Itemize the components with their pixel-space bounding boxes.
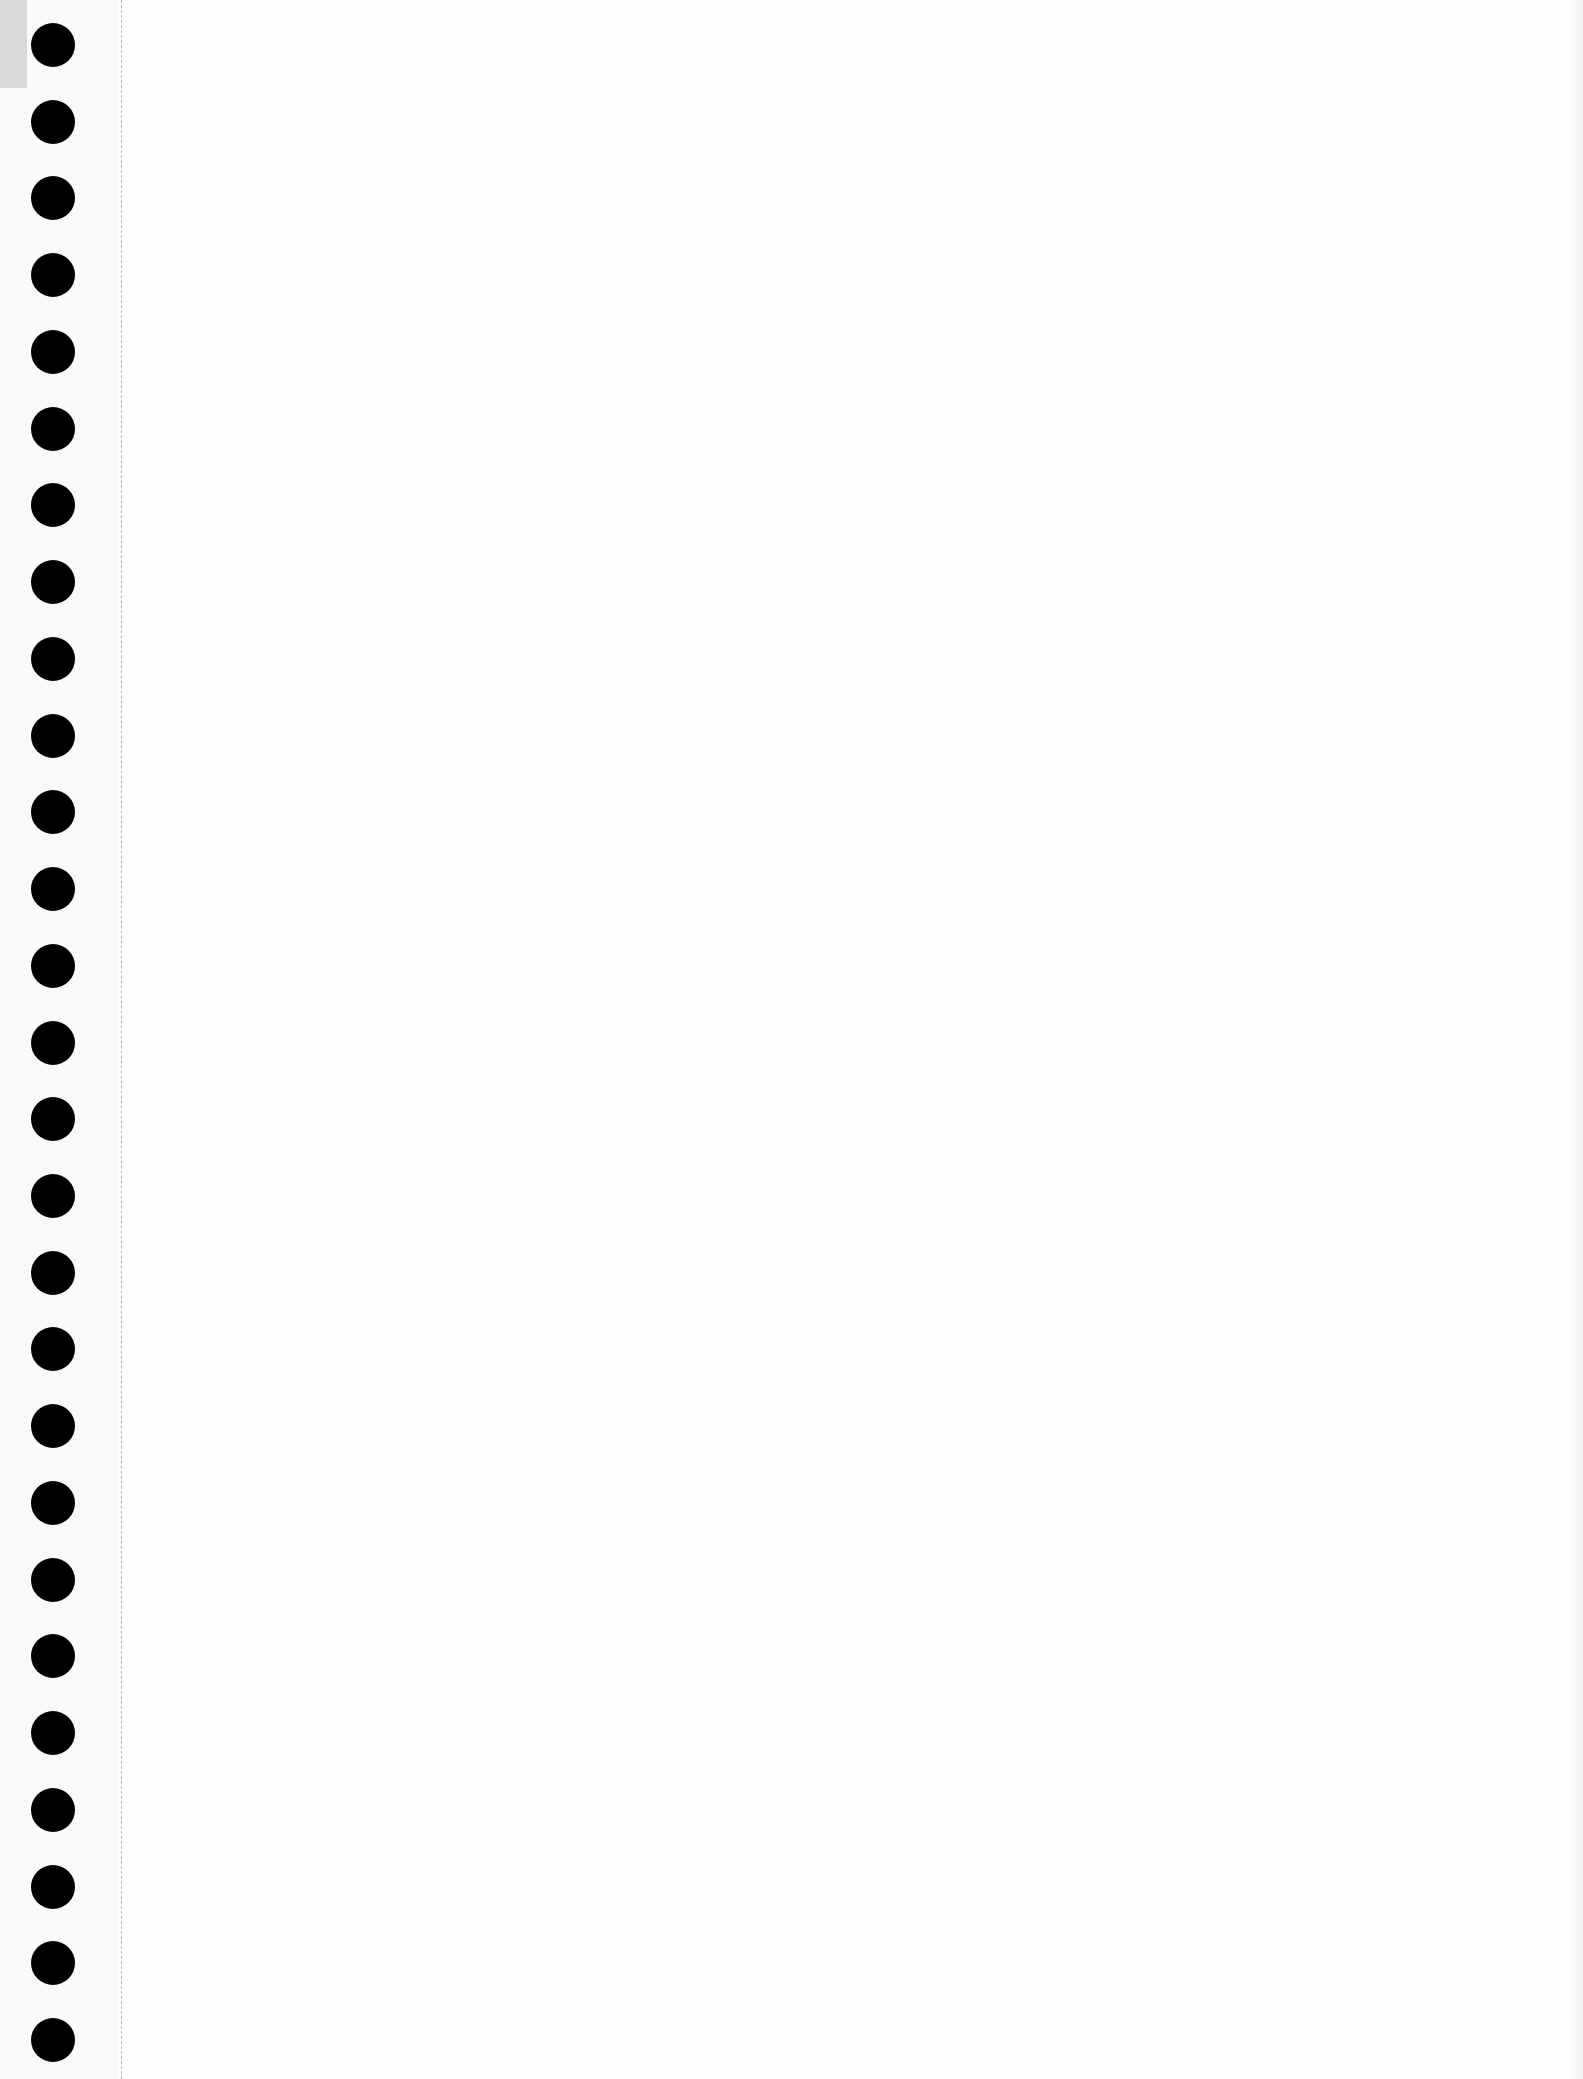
punch-hole [31,790,75,834]
punch-hole [31,253,75,297]
punch-hole [31,1327,75,1371]
punch-hole [31,483,75,527]
punch-hole [31,1865,75,1909]
punch-hole [31,560,75,604]
punch-hole [31,23,75,67]
punch-hole [31,944,75,988]
page-body-text [140,20,1560,2060]
page-right-edge [1569,0,1583,2079]
perforation-line [121,0,122,2079]
punch-hole [31,867,75,911]
punch-hole [31,176,75,220]
punch-hole [31,714,75,758]
punch-hole [31,1711,75,1755]
punch-hole [31,1097,75,1141]
punch-hole [31,1558,75,1602]
punch-hole [31,1404,75,1448]
punch-hole [31,330,75,374]
punch-hole [31,2018,75,2062]
punch-hole [31,1941,75,1985]
punch-hole [31,1174,75,1218]
punch-hole [31,1021,75,1065]
punch-hole [31,1251,75,1295]
punched-holes [0,0,110,2079]
punch-hole [31,100,75,144]
punch-hole [31,407,75,451]
punch-hole [31,1481,75,1525]
punch-hole [31,1788,75,1832]
punch-hole [31,1634,75,1678]
punch-hole [31,637,75,681]
notebook-page [0,0,1583,2079]
